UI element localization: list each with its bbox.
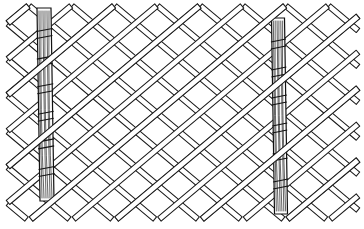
right-post <box>271 18 288 214</box>
left-post <box>36 8 54 201</box>
fence-engraving-canvas: Diagonal lattice trellis fence panel Eng… <box>0 0 364 229</box>
lattice-fence-illustration: Diagonal lattice trellis fence panel Eng… <box>0 0 364 229</box>
paper-background <box>0 0 364 229</box>
